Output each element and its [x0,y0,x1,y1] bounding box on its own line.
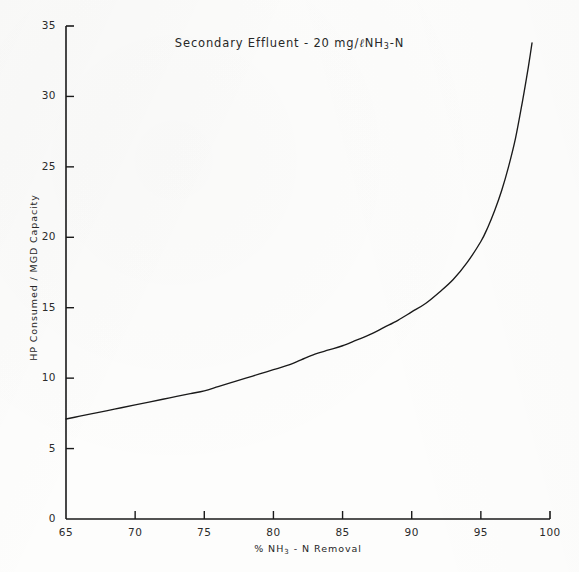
y-tick-label: 0 [30,512,56,524]
axes [66,26,550,519]
x-tick-label: 100 [533,526,567,538]
data-curve-line [66,43,532,419]
plot-area [0,0,579,572]
y-tick-label: 10 [30,371,56,383]
y-tick-label: 5 [30,442,56,454]
x-tick-label: 65 [49,526,83,538]
y-tick-label: 25 [30,160,56,172]
x-tick-label: 75 [187,526,221,538]
x-tick-label: 80 [256,526,290,538]
chart-figure: Secondary Effluent - 20 mg/ℓNH3-N HP Con… [0,0,579,572]
y-tick-label: 15 [30,301,56,313]
y-tick-label: 35 [30,19,56,31]
y-tick-label: 30 [30,89,56,101]
x-tick-label: 70 [118,526,152,538]
x-tick-label: 90 [395,526,429,538]
y-tick-label: 20 [30,230,56,242]
x-tick-label: 95 [464,526,498,538]
x-tick-label: 85 [326,526,360,538]
